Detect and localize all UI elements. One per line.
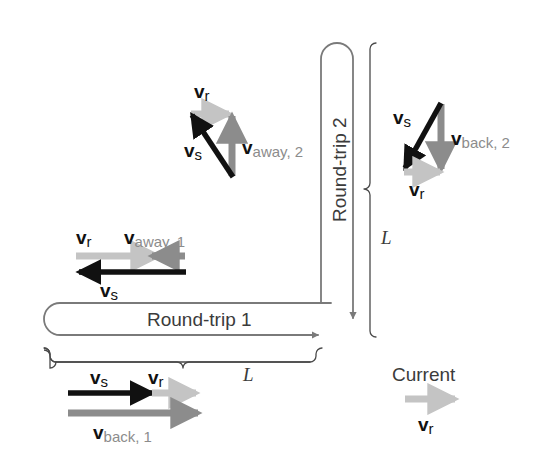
label-vr-back1: vr: [148, 368, 164, 387]
label-vr-away2-subscript: r: [205, 87, 210, 104]
label-vr-back1-symbol: v: [148, 367, 159, 388]
legend-symbol: vr: [418, 415, 434, 434]
physics-vector-diagram: Round-trip 1 Round-trip 2 L L vr vs vawa…: [0, 0, 541, 457]
label-vr-back2-symbol: v: [409, 179, 420, 200]
label-vr-back2-subscript: r: [420, 185, 425, 202]
label-vs-back2: vs: [393, 108, 411, 127]
label-vr-away1-symbol: v: [76, 227, 87, 248]
label-vback1: vback, 1: [93, 423, 152, 442]
label-vaway2-subscript: away, 2: [253, 143, 304, 160]
label-vs-back2-symbol: v: [393, 107, 404, 128]
label-vaway2: vaway, 2: [242, 138, 303, 157]
label-vaway1-symbol: v: [124, 227, 135, 248]
round-trip-1-label: Round-trip 1: [147, 310, 252, 329]
label-vaway2-symbol: v: [242, 137, 253, 158]
label-vs-back1: vs: [90, 368, 108, 387]
label-vback2: vback, 2: [451, 129, 510, 148]
brace-vertical-L: [364, 43, 376, 337]
label-vs-back1-subscript: s: [101, 373, 109, 390]
label-vr-away1-subscript: r: [87, 233, 92, 250]
length-label-vertical: L: [381, 228, 392, 247]
label-vs-back2-subscript: s: [404, 113, 412, 130]
label-vs-away1-subscript: s: [111, 286, 119, 303]
round-trip-2-label: Round-trip 2: [330, 117, 349, 222]
label-vback1-symbol: v: [93, 422, 104, 443]
label-vs-away2-subscript: s: [195, 146, 203, 163]
label-vback2-symbol: v: [451, 128, 462, 149]
length-label-horizontal: L: [243, 365, 254, 384]
label-vs-away1-symbol: v: [100, 280, 111, 301]
label-vr-back1-subscript: r: [159, 373, 164, 390]
label-vr-away2-symbol: v: [194, 81, 205, 102]
legend-symbol-bold: v: [418, 414, 429, 435]
label-vaway1-subscript: away, 1: [135, 233, 186, 250]
brace-horizontal-L: [44, 348, 322, 368]
label-vr-away1: vr: [76, 228, 92, 247]
label-vs-away2: vs: [184, 141, 202, 160]
label-vback2-subscript: back, 2: [462, 134, 510, 151]
label-vback1-subscript: back, 1: [104, 428, 152, 445]
vector-group-back-1: [68, 393, 198, 413]
label-vr-away2: vr: [194, 82, 210, 101]
label-vs-away1: vs: [100, 281, 118, 300]
legend-title: Current: [392, 365, 455, 384]
vector-group-away-1: [76, 256, 186, 272]
label-vs-back1-symbol: v: [90, 367, 101, 388]
label-vs-away2-symbol: v: [184, 140, 195, 161]
label-vr-back2: vr: [409, 180, 425, 199]
legend-symbol-subscript: r: [429, 420, 434, 437]
label-vaway1: vaway, 1: [124, 228, 185, 247]
